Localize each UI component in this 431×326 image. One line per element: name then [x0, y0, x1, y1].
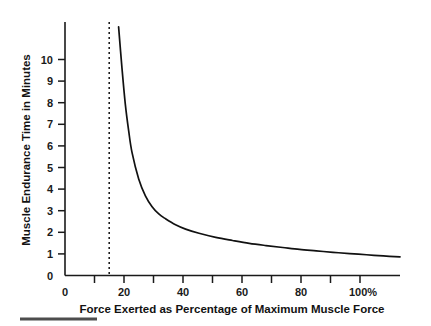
chart-figure: 10 9 8 7 6 5 4 3 2 1 0 0 2 [0, 0, 431, 326]
x-tick-label: 80 [295, 286, 307, 298]
y-tick-label: 5 [47, 162, 53, 174]
x-tick-label: 100% [349, 286, 377, 298]
x-tick-label: 20 [118, 286, 130, 298]
x-axis-title: Force Exerted as Percentage of Maximum M… [80, 303, 385, 315]
x-tick-label: 60 [236, 286, 248, 298]
y-tick-label: 4 [47, 183, 54, 195]
y-tick-label: 9 [47, 75, 53, 87]
x-tick-label: 40 [177, 286, 189, 298]
y-tick-label: 0 [47, 270, 53, 282]
y-tick-label: 1 [47, 248, 53, 260]
y-tick-label: 7 [47, 118, 53, 130]
y-axis-title: Muscle Endurance Time in Minutes [20, 54, 32, 246]
y-tick-label: 2 [47, 226, 53, 238]
endurance-curve-chart: 10 9 8 7 6 5 4 3 2 1 0 0 2 [0, 0, 431, 326]
y-tick-label: 3 [47, 205, 53, 217]
x-tick-label: 0 [62, 286, 68, 298]
y-tick-label: 8 [47, 97, 53, 109]
y-tick-label: 6 [47, 140, 53, 152]
y-tick-label: 10 [41, 54, 53, 66]
